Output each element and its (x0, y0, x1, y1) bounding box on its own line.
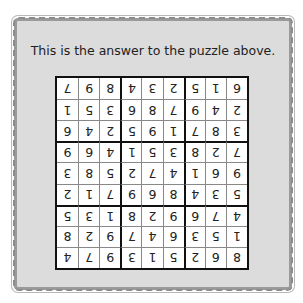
sudoku-cell: 6 (226, 78, 247, 99)
sudoku-cell: 7 (57, 78, 78, 99)
sudoku-cell: 6 (205, 247, 226, 268)
sudoku-cell: 2 (57, 184, 78, 205)
sudoku-cell: 9 (99, 226, 120, 247)
sudoku-cell: 4 (57, 247, 78, 268)
sudoku-cell: 9 (184, 99, 205, 120)
sudoku-cell: 3 (184, 226, 205, 247)
sudoku-cell: 2 (99, 120, 120, 141)
sudoku-cell: 1 (78, 184, 99, 205)
sudoku-cell: 3 (99, 99, 120, 120)
sudoku-cell: 5 (226, 184, 247, 205)
sudoku-cell: 5 (141, 141, 162, 162)
sudoku-cell: 1 (141, 247, 162, 268)
sudoku-cell: 1 (184, 162, 205, 183)
sudoku-cell: 3 (78, 205, 99, 226)
sudoku-cell: 6 (205, 162, 226, 183)
sudoku-cell: 4 (184, 184, 205, 205)
sudoku-cell: 6 (78, 141, 99, 162)
sudoku-cell: 8 (205, 120, 226, 141)
sudoku-cell: 9 (141, 120, 162, 141)
sudoku-cell: 7 (141, 162, 162, 183)
sudoku-cell: 7 (78, 247, 99, 268)
sudoku-cell: 2 (141, 205, 162, 226)
sudoku-cell: 2 (205, 141, 226, 162)
sudoku-cell: 1 (57, 99, 78, 120)
sudoku-cell: 7 (226, 141, 247, 162)
sudoku-cell: 5 (163, 247, 184, 268)
sudoku-cell: 8 (99, 78, 120, 99)
answer-card: This is the answer to the puzzle above. … (14, 18, 292, 290)
sudoku-cell: 1 (99, 205, 120, 226)
sudoku-cell: 7 (205, 205, 226, 226)
sudoku-cell: 3 (205, 184, 226, 205)
sudoku-cell: 9 (57, 141, 78, 162)
sudoku-cell: 8 (120, 205, 141, 226)
sudoku-cell: 8 (141, 99, 162, 120)
sudoku-cell: 6 (57, 120, 78, 141)
sudoku-cell: 3 (141, 78, 162, 99)
sudoku-cell: 7 (184, 120, 205, 141)
sudoku-cell: 4 (163, 162, 184, 183)
sudoku-cell: 4 (99, 141, 120, 162)
sudoku-cell: 2 (226, 99, 247, 120)
sudoku-cell: 2 (163, 78, 184, 99)
sudoku-cell: 1 (163, 120, 184, 141)
sudoku-cell: 1 (205, 78, 226, 99)
sudoku-cell: 4 (78, 120, 99, 141)
sudoku-cell: 1 (120, 141, 141, 162)
sudoku-cell: 3 (57, 162, 78, 183)
sudoku-cell: 3 (163, 141, 184, 162)
sudoku-cell: 8 (57, 226, 78, 247)
sudoku-cell: 4 (141, 226, 162, 247)
answer-caption: This is the answer to the puzzle above. (17, 43, 289, 58)
sudoku-cell: 5 (184, 78, 205, 99)
sudoku-cell: 6 (184, 205, 205, 226)
sudoku-cell: 3 (120, 247, 141, 268)
sudoku-cell: 4 (205, 99, 226, 120)
sudoku-cell: 5 (78, 99, 99, 120)
sudoku-cell: 4 (226, 205, 247, 226)
sudoku-cell: 7 (120, 226, 141, 247)
sudoku-cell: 8 (184, 141, 205, 162)
sudoku-cell: 8 (226, 247, 247, 268)
sudoku-cell: 9 (163, 205, 184, 226)
sudoku-solution-grid: 8625139741536479284769281355348697129614… (55, 76, 249, 270)
sudoku-cell: 7 (163, 99, 184, 120)
sudoku-cell: 9 (120, 184, 141, 205)
sudoku-cell: 7 (99, 184, 120, 205)
sudoku-cell: 5 (99, 162, 120, 183)
sudoku-cell: 8 (163, 184, 184, 205)
sudoku-cell: 8 (78, 162, 99, 183)
sudoku-cell: 4 (120, 78, 141, 99)
sudoku-cell: 5 (57, 205, 78, 226)
sudoku-cell: 9 (99, 247, 120, 268)
sudoku-cell: 9 (78, 78, 99, 99)
sudoku-cell: 6 (141, 184, 162, 205)
sudoku-cell: 6 (163, 226, 184, 247)
sudoku-cell: 9 (226, 162, 247, 183)
sudoku-cell: 3 (226, 120, 247, 141)
sudoku-cell: 6 (120, 99, 141, 120)
sudoku-cell: 2 (78, 226, 99, 247)
sudoku-cell: 2 (120, 162, 141, 183)
sudoku-cell: 5 (120, 120, 141, 141)
sudoku-cell: 5 (205, 226, 226, 247)
sudoku-cell: 2 (184, 247, 205, 268)
sudoku-cell: 1 (226, 226, 247, 247)
